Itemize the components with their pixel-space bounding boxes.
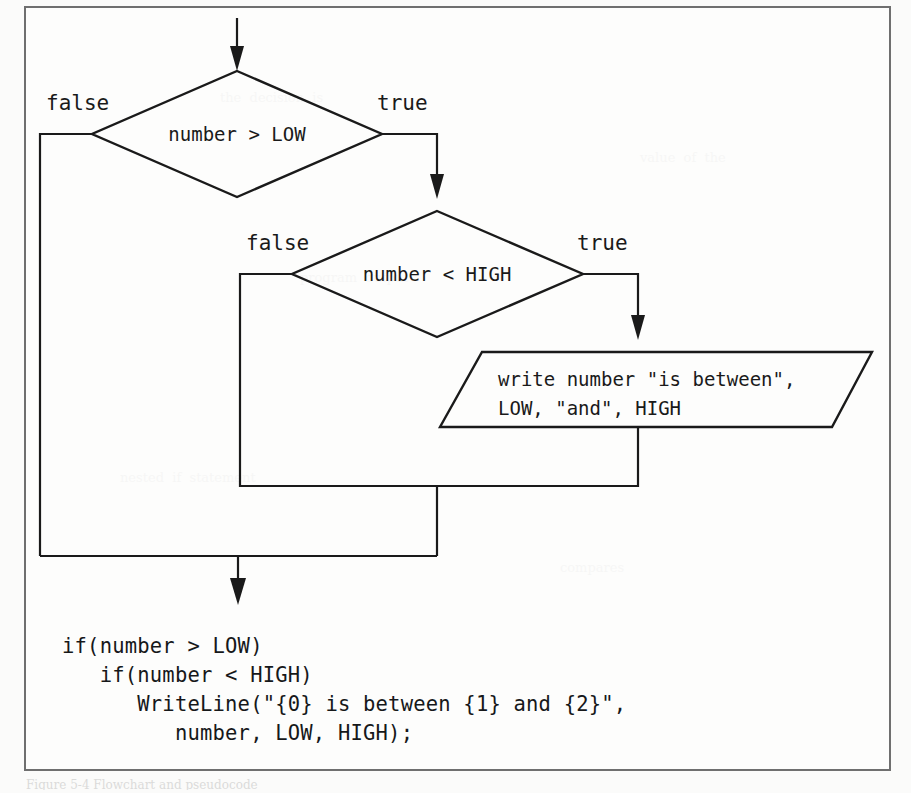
figure-container: the decision is program output nested if… <box>0 0 911 793</box>
inner-merge-connector <box>437 486 638 556</box>
code-line-4: number, LOW, HIGH); <box>62 721 413 745</box>
code-line-3: WriteLine("{0} is between {1} and {2}", <box>62 692 626 716</box>
decision-1-true-label: true <box>377 91 428 115</box>
decision-1-true-arrow-head-icon <box>430 174 444 199</box>
output-line-2: LOW, "and", HIGH <box>498 397 681 419</box>
decision-1-false-path <box>40 134 92 556</box>
decision-1-true-path <box>382 134 437 185</box>
exit-arrow-head-icon <box>230 578 246 605</box>
decision-1-label: number > LOW <box>168 123 306 145</box>
code-line-1: if(number > LOW) <box>62 634 263 658</box>
decision-2-label: number < HIGH <box>363 263 512 285</box>
output-line-1: write number "is between", <box>498 368 795 390</box>
decision-2-false-label: false <box>246 231 309 255</box>
decision-1-false-label: false <box>46 91 109 115</box>
figure-caption: Figure 5-4 Flowchart and pseudocode <box>26 778 456 790</box>
decision-2-true-label: true <box>577 231 628 255</box>
pseudocode-listing: if(number > LOW) if(number < HIGH) Write… <box>62 632 626 748</box>
decision-2-true-arrow-head-icon <box>631 315 645 340</box>
decision-2-true-path <box>583 274 638 326</box>
code-line-2: if(number < HIGH) <box>62 663 313 687</box>
entry-arrow-head-icon <box>230 46 244 71</box>
